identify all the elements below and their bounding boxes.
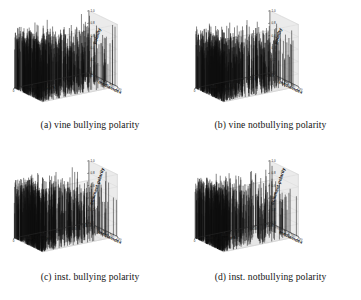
- x-tick-label: 8000: [70, 227, 77, 231]
- x-tick-label: 2000: [25, 236, 32, 240]
- z-tick-label: 1.0: [271, 9, 275, 13]
- x-tick-label: 6000: [55, 230, 62, 234]
- subfigure-a: 0.00.20.40.60.81.0polarity05000100001500…: [0, 0, 180, 140]
- caption-b: (b) vine notbullying polarity: [180, 119, 361, 130]
- figure-grid: 0.00.20.40.60.81.0polarity05000100001500…: [0, 0, 361, 300]
- plot-a-svg: 0.00.20.40.60.81.0polarity05000100001500…: [0, 0, 180, 118]
- z-tick-label: 0.2: [271, 208, 275, 212]
- caption-d: (d) inst. notbullying polarity: [180, 271, 361, 282]
- plot-b-svg: 0.00.20.40.60.81.0polarity05000100001500…: [180, 0, 361, 118]
- subfigure-b: 0.00.20.40.60.81.0polarity05000100001500…: [180, 0, 361, 140]
- plot-d-svg: 0.00.20.40.60.81.0comment polarity020004…: [180, 140, 361, 268]
- z-tick-label: 1.0: [271, 159, 275, 163]
- x-tick-label: 5000: [210, 85, 217, 89]
- x-tick-label: 2000: [206, 236, 213, 240]
- caption-a: (a) vine bullying polarity: [0, 119, 180, 130]
- plot-d: 0.00.20.40.60.81.0comment polarity020004…: [180, 140, 361, 268]
- x-tick-label: 15000: [66, 77, 74, 81]
- z-tick-label: 0.8: [271, 21, 275, 25]
- x-tick-label: 0: [194, 239, 196, 243]
- plot-b: 0.00.20.40.60.81.0polarity05000100001500…: [180, 0, 361, 118]
- caption-c: (c) inst. bullying polarity: [0, 271, 180, 282]
- x-tick-label: 5000: [29, 85, 36, 89]
- plot-a: 0.00.20.40.60.81.0polarity05000100001500…: [0, 0, 180, 118]
- x-tick-label: 6000: [236, 230, 243, 234]
- z-tick-label: 0.2: [90, 208, 94, 212]
- subfigure-c: 0.00.20.40.60.81.0comment polarity020004…: [0, 140, 180, 300]
- x-tick-label: 15000: [247, 77, 255, 81]
- z-tick-label: 0.8: [90, 171, 94, 175]
- z-tick-label: 1.0: [90, 159, 94, 163]
- plot-c-svg: 0.00.20.40.60.81.0comment polarity020004…: [0, 140, 180, 268]
- z-tick-label: 1.0: [90, 9, 94, 13]
- z-tick-label: 0.8: [90, 21, 94, 25]
- z-tick-label: 0.4: [271, 46, 275, 50]
- z-tick-label: 0.2: [271, 58, 275, 62]
- x-tick-label: 0: [13, 239, 15, 243]
- x-tick-label: 8000: [251, 227, 258, 231]
- plot-c: 0.00.20.40.60.81.0comment polarity020004…: [0, 140, 180, 268]
- z-tick-label: 0.4: [90, 46, 94, 50]
- x-tick-label: 0: [13, 89, 15, 93]
- subfigure-d: 0.00.20.40.60.81.0comment polarity020004…: [180, 140, 361, 300]
- z-tick-label: 0.8: [271, 171, 275, 175]
- x-tick-label: 0: [194, 89, 196, 93]
- z-tick-label: 0.2: [90, 58, 94, 62]
